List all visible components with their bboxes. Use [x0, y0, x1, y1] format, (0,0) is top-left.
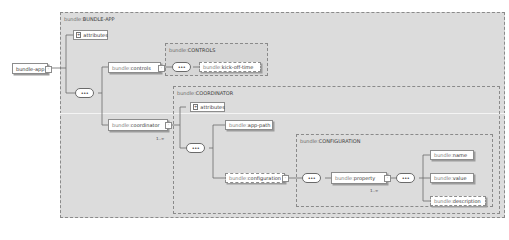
node-label: description — [453, 198, 481, 204]
node-namespace: bundle: — [229, 175, 248, 181]
sequence-compositor[interactable]: ••• — [396, 173, 415, 183]
element-name[interactable]: bundle:name — [430, 150, 474, 160]
element-bundle-app[interactable]: bundle-app - — [12, 63, 48, 74]
node-label: attributes — [200, 104, 224, 110]
node-namespace: bundle: — [203, 64, 222, 70]
node-label: attributes — [83, 32, 107, 38]
node-label: bundle-app — [16, 66, 44, 72]
node-label: property — [354, 175, 375, 181]
node-label: app-path — [248, 122, 271, 128]
node-namespace: bundle: — [112, 122, 131, 128]
sequence-compositor[interactable]: ••• — [302, 173, 321, 183]
sequence-icon: ••• — [402, 176, 409, 181]
element-kick-off-time[interactable]: bundle:kick-off-time — [199, 62, 261, 72]
sequence-icon: ••• — [308, 176, 315, 181]
element-property[interactable]: bundle:property - — [331, 172, 387, 184]
collapse-icon[interactable]: - — [165, 122, 172, 129]
element-description[interactable]: bundle:description — [430, 196, 486, 206]
cardinality-label: 1..∞ — [156, 136, 164, 141]
node-label: controls — [131, 65, 151, 71]
node-label: configuration — [248, 175, 281, 181]
node-namespace: bundle: — [229, 122, 248, 128]
element-controls[interactable]: bundle:controls - — [108, 62, 161, 73]
element-value[interactable]: bundle:value — [430, 173, 474, 183]
element-configuration[interactable]: bundle:configuration - — [225, 173, 285, 183]
node-label: coordinator — [131, 122, 160, 128]
sequence-compositor[interactable]: ••• — [186, 143, 205, 153]
node-namespace: bundle: — [335, 175, 354, 181]
node-namespace: bundle: — [434, 152, 453, 158]
node-namespace: bundle: — [434, 175, 453, 181]
attributes-coordinator[interactable]: + attributes — [190, 102, 225, 112]
sequence-icon: ••• — [81, 91, 88, 96]
element-coordinator[interactable]: bundle:coordinator - — [108, 119, 168, 131]
node-label: value — [453, 175, 467, 181]
collapse-icon[interactable]: - — [45, 66, 52, 73]
collapse-icon[interactable]: - — [158, 65, 165, 72]
expand-plus-icon[interactable]: + — [76, 32, 81, 38]
node-namespace: bundle: — [434, 198, 453, 204]
expand-plus-icon[interactable]: + — [193, 104, 198, 110]
sequence-compositor[interactable]: ••• — [75, 88, 94, 98]
element-app-path[interactable]: bundle:app-path — [225, 120, 273, 130]
node-label: kick-off-time — [222, 64, 253, 70]
collapse-icon[interactable]: - — [384, 175, 391, 182]
sequence-icon: ••• — [192, 146, 199, 151]
sequence-compositor[interactable]: ••• — [172, 62, 191, 72]
node-label: name — [453, 152, 467, 158]
node-namespace: bundle: — [112, 65, 131, 71]
sequence-icon: ••• — [178, 65, 185, 70]
attributes-bundle-app[interactable]: + attributes — [73, 30, 108, 40]
collapse-icon[interactable]: - — [282, 175, 289, 182]
cardinality-label: 1..∞ — [370, 188, 378, 193]
